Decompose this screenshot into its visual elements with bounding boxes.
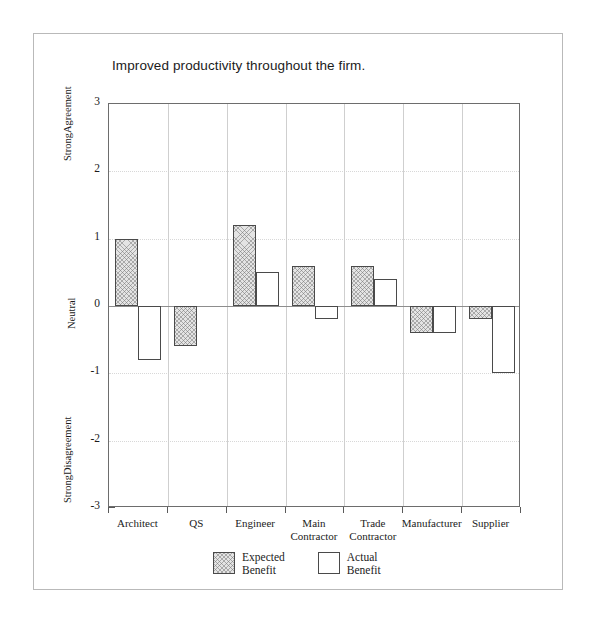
zero-baseline [109,306,519,307]
category-separator [168,104,169,506]
bar-expected [292,266,315,306]
x-tick [520,507,521,513]
bar-expected [351,266,374,306]
category-separator [344,104,345,506]
bar-actual [374,279,397,306]
gridline [109,239,519,240]
y-tick-label: 1 [78,230,100,242]
y-tick-label: -1 [78,364,100,376]
annotation-neutral: Neutral [66,298,77,330]
x-tick [167,507,168,513]
legend-swatch-actual-icon [318,552,340,574]
gridline [109,441,519,442]
y-tick-label: -2 [78,432,100,444]
x-tick [108,507,109,513]
gridline [109,373,519,374]
x-tick [226,507,227,513]
category-separator [286,104,287,506]
bar-expected [233,225,256,306]
legend-item-actual: Actual Benefit [318,551,381,576]
y-tick-major [108,507,115,508]
y-tick-label: -3 [78,499,100,511]
bar-expected [115,239,138,306]
x-tick [461,507,462,513]
bar-actual [256,272,279,306]
x-tick [343,507,344,513]
bar-actual [138,306,161,360]
chart-page: Improved productivity throughout the fir… [0,0,594,618]
bar-expected [410,306,433,333]
chart-legend: Expected Benefit Actual Benefit [213,551,381,576]
bar-actual [433,306,456,333]
bar-actual [492,306,515,373]
bar-expected [469,306,492,319]
annotation-strong-agreement: StrongAgreement [62,86,74,161]
bar-actual [315,306,338,319]
category-separator [227,104,228,506]
plot-inner [109,104,519,506]
bar-expected [174,306,197,346]
x-tick [285,507,286,513]
category-separator [403,104,404,506]
legend-label-actual: Actual Benefit [347,551,381,576]
annotation-strong-disagreement: StrongDisagreement [62,417,74,503]
legend-label-expected: Expected Benefit [242,551,285,576]
category-separator [462,104,463,506]
y-tick-label: 3 [78,95,100,107]
x-tick [402,507,403,513]
x-category-label: Supplier [451,517,530,530]
chart-title: Improved productivity throughout the fir… [112,58,365,73]
y-tick-label: 2 [78,162,100,174]
legend-swatch-expected-icon [213,552,235,574]
legend-item-expected: Expected Benefit [213,551,285,576]
y-tick-label: 0 [78,297,100,309]
gridline [109,171,519,172]
plot-area [108,103,520,507]
